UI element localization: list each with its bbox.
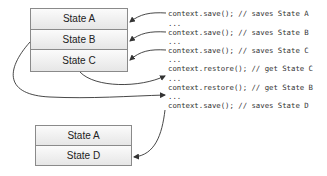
arrow-save-a-icon	[130, 13, 166, 22]
arrow-restore-b-icon	[13, 42, 165, 98]
arrow-save-d-icon	[134, 110, 165, 157]
arrows-layer	[0, 0, 327, 176]
arrow-save-b-icon	[130, 32, 166, 41]
arrow-save-c-icon	[130, 50, 166, 60]
arrow-restore-c-icon	[80, 72, 165, 85]
